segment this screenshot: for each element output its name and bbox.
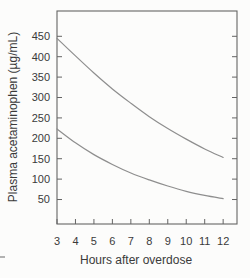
upper-curve: [57, 38, 223, 157]
lower-curve: [57, 129, 223, 199]
y-tick-label: 400: [32, 51, 50, 63]
x-tick-label: 3: [54, 235, 60, 247]
y-tick-label: 250: [32, 112, 50, 124]
x-tick-label: 4: [72, 235, 78, 247]
y-tick-label: 150: [32, 153, 50, 165]
y-tick-label: 300: [32, 91, 50, 103]
y-tick-label: 200: [32, 132, 50, 144]
x-tick-label: 7: [128, 235, 134, 247]
x-tick-label: 5: [91, 235, 97, 247]
x-tick-label: 6: [109, 235, 115, 247]
acetaminophen-nomogram-figure: 501001502002503003504004503456789101112 …: [0, 0, 250, 278]
y-tick-label: 50: [38, 193, 50, 205]
y-tick-label: 350: [32, 71, 50, 83]
x-tick-label: 9: [165, 235, 171, 247]
scan-artifact-mark: [0, 256, 5, 258]
x-tick-label: 12: [217, 235, 229, 247]
y-tick-label: 100: [32, 173, 50, 185]
plot-frame: [57, 11, 237, 224]
chart-canvas: 501001502002503003504004503456789101112: [0, 0, 250, 278]
x-tick-label: 11: [199, 235, 210, 247]
y-tick-label: 450: [32, 30, 50, 42]
x-tick-label: 8: [146, 235, 152, 247]
x-axis-title: Hours after overdose: [80, 253, 192, 267]
x-tick-label: 10: [180, 235, 192, 247]
